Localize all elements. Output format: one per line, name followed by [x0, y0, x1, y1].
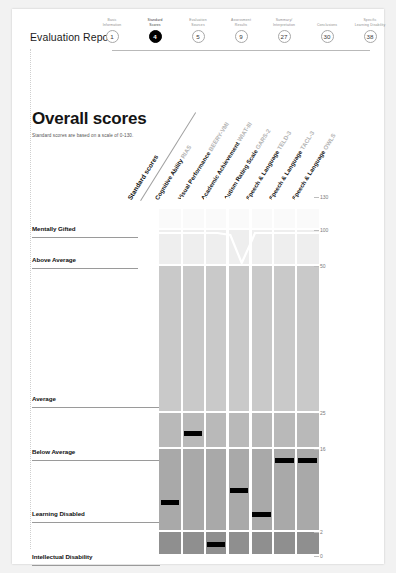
- margin-rule: [30, 49, 31, 549]
- band-label-rule: [32, 268, 138, 269]
- band-label-text: Intellectual Disability: [32, 553, 92, 560]
- progress-stepper[interactable]: Basic Information1Standard Scores4Evalua…: [108, 17, 376, 61]
- y-axis-tick-130: 130: [320, 194, 328, 200]
- band-label-text: Learning Disabled: [32, 510, 85, 517]
- y-axis-tick-100: 100: [320, 227, 328, 233]
- stepper-step-27[interactable]: Summary/ Interpretation27: [261, 17, 307, 43]
- scores-chart[interactable]: [148, 197, 320, 556]
- y-axis-tick-25: 25: [320, 410, 326, 416]
- column-header-instrument: TACL-3: [299, 130, 315, 151]
- y-axis-tick-mark: [314, 449, 319, 450]
- stepper-step-9[interactable]: Assessment Results9: [218, 17, 264, 43]
- column-header-instrument: GARS-2: [254, 128, 271, 150]
- y-axis-tick-50: 50: [320, 263, 326, 269]
- column-header-instrument: OWLS: [322, 133, 337, 151]
- stepper-step-number[interactable]: 5: [192, 30, 205, 43]
- page-subtitle: Standard scores are based on a scale of …: [32, 133, 133, 138]
- chart-plot-area: [159, 197, 319, 556]
- band-label-rule: [32, 407, 160, 408]
- stepper-step-number[interactable]: 38: [364, 30, 377, 43]
- band-label-mentally-gifted: Mentally Gifted: [32, 217, 160, 235]
- stepper-step-number[interactable]: 4: [149, 30, 162, 43]
- stepper-step-1[interactable]: Basic Information1: [89, 17, 135, 43]
- report-page: Evaluation Report Basic Information1Stan…: [0, 0, 396, 573]
- stepper-connector-line: [112, 50, 370, 51]
- score-marker[interactable]: [161, 500, 179, 505]
- stepper-step-4[interactable]: Standard Scores4: [132, 17, 178, 43]
- score-marker[interactable]: [184, 431, 202, 436]
- column-header-instrument: BEERY-VMI: [207, 121, 229, 152]
- stepper-step-label: Evaluation Sources: [175, 17, 221, 27]
- y-axis-tick-mark: [314, 413, 319, 414]
- column-header-name: Academic Achievement: [200, 139, 242, 201]
- band-label-text: Below Average: [32, 448, 75, 455]
- stepper-step-label: Conclusions: [304, 17, 350, 27]
- band-label-below-average: Below Average: [32, 440, 160, 458]
- stepper-step-5[interactable]: Evaluation Sources5: [175, 17, 221, 43]
- y-axis-tick-0: 0: [320, 553, 323, 559]
- stepper-step-label: Assessment Results: [218, 17, 264, 27]
- y-axis: 13010050251620: [320, 197, 380, 557]
- band-label-rule: [32, 237, 138, 238]
- stepper-step-label: Standard Scores: [132, 17, 178, 27]
- column-header-instrument: TELD-3: [277, 130, 293, 151]
- band-label-rule: [32, 565, 160, 566]
- y-axis-tick-mark: [314, 197, 319, 198]
- page-title: Overall scores: [32, 109, 146, 129]
- column-header-instrument: WIAT-III: [236, 121, 253, 142]
- stepper-step-number[interactable]: 27: [278, 30, 291, 43]
- stepper-step-number[interactable]: 30: [321, 30, 334, 43]
- band-label-text: Average: [32, 395, 56, 402]
- band-label-learning-disabled: Learning Disabled: [32, 502, 160, 520]
- score-marker[interactable]: [275, 458, 293, 463]
- column-header-teld-3[interactable]: Speech & Language TELD-3: [245, 130, 292, 201]
- column-headers: Standard scoresCognitive Ability RIASVis…: [132, 101, 392, 201]
- band-label-rule: [32, 460, 160, 461]
- column-header-gars-2[interactable]: Autism Rating Scale GARS-2: [222, 128, 271, 201]
- document-sheet: Evaluation Report Basic Information1Stan…: [12, 9, 384, 564]
- column-header-tacl-3[interactable]: Speech & Language TACL-3: [268, 130, 315, 201]
- above-average-zigzag-line: [159, 197, 319, 556]
- report-header: Evaluation Report Basic Information1Stan…: [12, 9, 384, 65]
- stepper-step-label: Specific Learning Disability: [347, 17, 393, 27]
- band-label-intellectual-disability: Intellectual Disability: [32, 545, 160, 563]
- score-marker[interactable]: [298, 458, 316, 463]
- column-header-instrument: RIAS: [180, 144, 193, 159]
- band-label-text: Mentally Gifted: [32, 225, 76, 232]
- band-label-average: Average: [32, 387, 160, 405]
- band-labels: Mentally GiftedAbove AverageAverageBelow…: [32, 197, 162, 557]
- stepper-step-label: Summary/ Interpretation: [261, 17, 307, 27]
- band-label-rule: [32, 522, 160, 523]
- stepper-step-number[interactable]: 1: [106, 30, 119, 43]
- score-marker[interactable]: [207, 542, 225, 547]
- score-marker[interactable]: [230, 488, 248, 493]
- y-axis-tick-mark: [314, 230, 319, 231]
- y-axis-tick-16: 16: [320, 446, 326, 452]
- y-axis-tick-mark: [314, 266, 319, 267]
- y-axis-tick-2: 2: [320, 529, 323, 535]
- column-header-owls[interactable]: Speech & Language OWLS: [291, 133, 337, 201]
- y-axis-tick-mark: [314, 532, 319, 533]
- band-label-above-average: Above Average: [32, 248, 160, 266]
- band-label-text: Above Average: [32, 256, 76, 263]
- stepper-step-number[interactable]: 9: [235, 30, 248, 43]
- score-marker[interactable]: [252, 512, 270, 517]
- stepper-step-30[interactable]: Conclusions30: [304, 17, 350, 43]
- stepper-step-label: Basic Information: [89, 17, 135, 27]
- stepper-step-38[interactable]: Specific Learning Disability38: [347, 17, 393, 43]
- y-axis-tick-mark: [314, 556, 319, 557]
